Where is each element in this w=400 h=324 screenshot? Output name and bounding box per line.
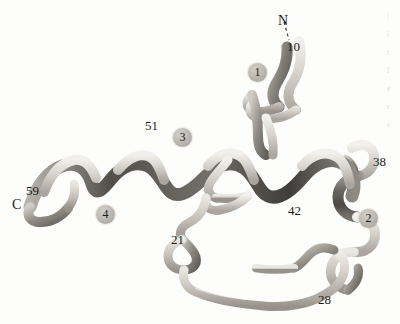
residue-label-28: 28 bbox=[318, 293, 331, 306]
helix-badge-2: 2 bbox=[359, 209, 378, 228]
central-helix-ribbon bbox=[28, 153, 353, 222]
edge-fragment: | bbox=[387, 12, 389, 21]
residue-label-59: 59 bbox=[26, 184, 39, 197]
n-terminus-label: N bbox=[278, 14, 288, 28]
residue-label-21: 21 bbox=[171, 233, 184, 246]
edge-fragment: t bbox=[387, 48, 389, 57]
edge-fragment: r bbox=[387, 102, 390, 111]
residue-label-38: 38 bbox=[373, 155, 386, 168]
ribbon-canvas bbox=[0, 0, 400, 324]
residue-label-42: 42 bbox=[288, 204, 301, 217]
loop-to-helix2-connector bbox=[348, 268, 359, 290]
c-terminus-label: C bbox=[12, 198, 21, 212]
helix-badge-3: 3 bbox=[173, 128, 192, 147]
residue-label-51: 51 bbox=[145, 119, 158, 132]
edge-fragment: e bbox=[387, 84, 391, 93]
edge-fragment: l bbox=[387, 66, 389, 75]
edge-fragment: c bbox=[387, 120, 391, 129]
edge-fragment: i bbox=[387, 30, 389, 39]
helix-badge-1: 1 bbox=[248, 63, 267, 82]
residue-label-10: 10 bbox=[287, 40, 300, 53]
helix-badge-4: 4 bbox=[96, 205, 115, 224]
page-edge-text-fragments: | i t l e r c bbox=[387, 12, 400, 129]
lower-loop-ribbon bbox=[168, 196, 345, 307]
protein-ribbon-figure: N C 10 21 28 38 42 51 59 1 2 3 4 | i t l… bbox=[0, 0, 400, 324]
